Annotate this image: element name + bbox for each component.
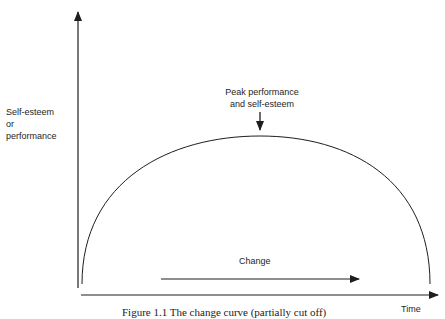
change-label: Change xyxy=(239,255,271,267)
y-axis-label-line-3: performance xyxy=(6,130,76,142)
peak-annotation: Peak performance and self-esteem xyxy=(222,86,302,110)
figure-caption: Figure 1.1 The change curve (partially c… xyxy=(122,306,326,319)
x-axis-label: Time xyxy=(401,303,421,315)
y-axis-label-line-1: Self-esteem xyxy=(6,106,76,118)
y-axis-label-line-2: or xyxy=(6,118,76,130)
peak-annotation-line-1: Peak performance xyxy=(222,86,302,98)
peak-annotation-line-2: and self-esteem xyxy=(222,98,302,110)
y-axis-label: Self-esteem or performance xyxy=(6,106,76,142)
